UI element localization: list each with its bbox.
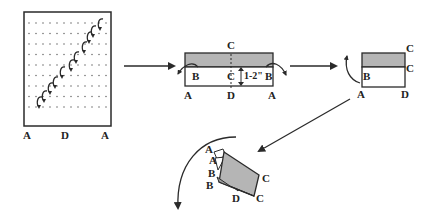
shaded-band	[185, 53, 273, 67]
label-a2: A	[209, 154, 217, 166]
label-c2: C	[256, 192, 264, 204]
folding-diagram: A D A C C B B 1-2" A D A C C B A D	[0, 0, 431, 223]
label-d: D	[232, 192, 240, 204]
label-b: B	[363, 70, 371, 82]
label-b-right: B	[265, 70, 273, 82]
label-a-right: A	[268, 89, 276, 101]
label-c-mid: C	[406, 62, 414, 74]
label-measure: 1-2"	[244, 70, 263, 81]
label-d: D	[401, 88, 409, 100]
label-b1: B	[208, 167, 216, 179]
step4-panel: A A B B D C C	[178, 137, 270, 208]
step2-panel: C C B B 1-2" A D A	[178, 39, 286, 101]
label-c-mid: C	[227, 70, 235, 82]
label-a-right: A	[101, 129, 109, 141]
shaded-band	[362, 53, 405, 67]
step3-panel: C C B A D	[346, 42, 414, 100]
label-d: D	[227, 89, 235, 101]
fold-up-arrow-icon	[346, 56, 360, 83]
label-c-top: C	[227, 39, 235, 51]
label-a-left: A	[184, 89, 192, 101]
label-b-left: B	[192, 70, 200, 82]
step1-panel: A D A	[23, 12, 111, 141]
paper-sheet	[24, 12, 111, 126]
label-a-left: A	[23, 129, 31, 141]
label-c-top: C	[406, 42, 414, 54]
down-left-arrow-icon	[259, 99, 350, 151]
label-b2: B	[206, 179, 214, 191]
label-c1: C	[262, 172, 270, 184]
label-a: A	[357, 88, 365, 100]
label-d: D	[61, 129, 69, 141]
